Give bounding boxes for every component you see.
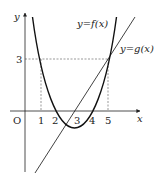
x-tick-3: 3 xyxy=(74,115,80,126)
f-label: y=f(x) xyxy=(76,18,108,29)
x-tick-1: 1 xyxy=(38,115,44,126)
y-axis-label: y xyxy=(13,11,20,22)
graph: y x O 3 1 2 3 4 5 y=f(x) y=g(x) xyxy=(0,0,163,184)
x-axis-label: x xyxy=(137,113,143,124)
x-tick-4: 4 xyxy=(89,115,95,126)
guide-lines xyxy=(25,59,108,111)
x-tick-2: 2 xyxy=(52,115,58,126)
g-label: y=g(x) xyxy=(119,43,154,54)
y-tick-3: 3 xyxy=(16,54,22,65)
x-tick-5: 5 xyxy=(105,115,111,126)
origin-label: O xyxy=(13,115,21,126)
